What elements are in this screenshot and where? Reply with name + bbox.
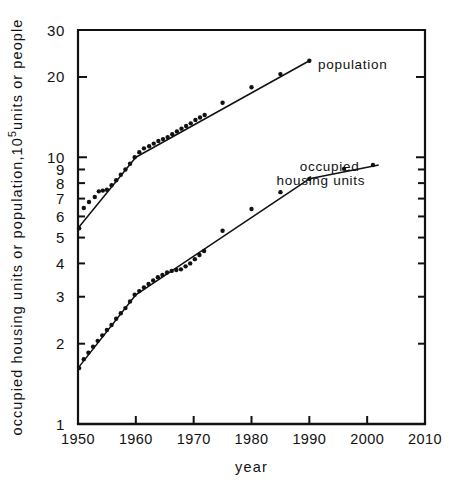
data-point (156, 139, 160, 143)
data-point (169, 269, 173, 273)
data-point (132, 293, 136, 297)
data-point (123, 306, 127, 310)
housing-label-line2: housing units (277, 173, 366, 188)
data-point (87, 200, 91, 204)
x-tick-label: 1970 (177, 431, 211, 447)
data-point (123, 167, 127, 171)
svg-text:occupied housing units or popu: occupied housing units or population,105… (6, 18, 25, 435)
data-point (97, 189, 101, 193)
data-point (156, 275, 160, 279)
data-point (160, 273, 164, 277)
data-point (82, 206, 86, 210)
data-point (198, 115, 202, 119)
data-point (119, 173, 123, 177)
data-point (184, 124, 188, 128)
data-point (146, 282, 150, 286)
data-point (202, 249, 206, 253)
data-point (220, 101, 224, 105)
data-point (128, 162, 132, 166)
x-tick-label: 1950 (61, 431, 95, 447)
data-point (142, 285, 146, 289)
data-point (193, 118, 197, 122)
y-tick-label: 10 (47, 149, 65, 166)
data-point (193, 257, 197, 261)
data-point (105, 328, 109, 332)
series-trend-line-occupied-housing-units (78, 165, 379, 368)
data-point (175, 129, 179, 133)
data-point (82, 357, 86, 361)
data-point (249, 207, 253, 211)
x-tick-label: 1990 (292, 431, 326, 447)
data-point (307, 59, 311, 63)
data-point (114, 178, 118, 182)
data-point (147, 144, 151, 148)
data-point (183, 264, 187, 268)
data-point (91, 344, 95, 348)
data-point (109, 323, 113, 327)
data-point (165, 135, 169, 139)
population-label: population (318, 57, 387, 72)
x-tick-label: 1980 (235, 431, 269, 447)
data-point (179, 126, 183, 130)
housing-label-line1: occupied (300, 159, 360, 174)
x-tick-label: 2010 (408, 431, 442, 447)
data-point (165, 270, 169, 274)
data-point (95, 339, 99, 343)
y-tick-label: 2 (56, 335, 65, 352)
data-point (371, 163, 375, 167)
data-point (114, 317, 118, 321)
data-point (119, 311, 123, 315)
data-point (100, 333, 104, 337)
data-point (202, 113, 206, 117)
data-point (179, 267, 183, 271)
data-point (77, 226, 81, 230)
x-axis-title: year (235, 459, 268, 475)
data-point (77, 366, 81, 370)
y-tick-label: 3 (56, 288, 65, 305)
data-point (137, 289, 141, 293)
data-point (170, 132, 174, 136)
chart-figure: 1234567891020301950196019701980199020002… (0, 0, 451, 497)
y-tick-label: 7 (56, 190, 65, 207)
data-point (152, 141, 156, 145)
data-point (132, 155, 136, 159)
data-point (174, 268, 178, 272)
data-point (189, 121, 193, 125)
x-tick-label: 2000 (350, 431, 384, 447)
data-point (151, 278, 155, 282)
chart-canvas: 1234567891020301950196019701980199020002… (0, 0, 451, 497)
x-tick-label: 1960 (119, 431, 153, 447)
data-point (105, 188, 109, 192)
y-tick-label: 1 (56, 416, 65, 433)
data-point (137, 150, 141, 154)
y-tick-label: 4 (56, 255, 65, 272)
data-point (142, 146, 146, 150)
data-point (161, 137, 165, 141)
y-axis-title: occupied housing units or population,105… (6, 18, 25, 435)
y-tick-label: 5 (56, 229, 65, 246)
data-point (93, 195, 97, 199)
data-point (197, 253, 201, 257)
data-point (278, 72, 282, 76)
data-point (188, 261, 192, 265)
data-point (220, 229, 224, 233)
data-point (86, 351, 90, 355)
y-tick-label: 20 (47, 68, 65, 85)
data-point (128, 299, 132, 303)
data-point (278, 190, 282, 194)
data-point (249, 85, 253, 89)
y-tick-label: 6 (56, 208, 65, 225)
series-trend-line-population (78, 61, 309, 228)
data-point (101, 188, 105, 192)
y-tick-label: 30 (47, 22, 65, 39)
data-point (109, 183, 113, 187)
